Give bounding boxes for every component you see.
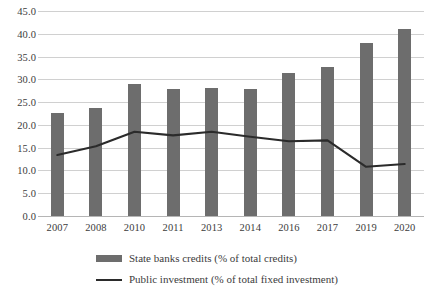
public-investment-line-svg [38, 11, 424, 216]
y-axis-tick-label: 40.0 [2, 28, 36, 39]
legend-label-public-investment: Public investment (% of total fixed inve… [129, 273, 338, 286]
bar-swatch-icon [96, 255, 122, 262]
y-axis: 45.040.035.030.025.020.015.010.05.00.0 [0, 0, 36, 222]
x-axis-tick-label-2017: 2017 [317, 222, 338, 234]
x-axis-tick-label-2008: 2008 [85, 222, 106, 234]
plot-area [38, 11, 424, 216]
y-axis-tick-label: 0.0 [2, 211, 36, 222]
y-axis-tick-label: 15.0 [2, 142, 36, 153]
line-swatch-icon [96, 279, 122, 281]
y-axis-tick-label: 25.0 [2, 97, 36, 108]
line-series-public-investment [38, 11, 424, 216]
x-axis-tick-label-2011: 2011 [163, 222, 184, 234]
y-axis-tick-label: 45.0 [2, 6, 36, 17]
x-axis-tick-label-2013: 2013 [201, 222, 222, 234]
y-axis-tick-label: 5.0 [2, 188, 36, 199]
legend-item-public-investment: Public investment (% of total fixed inve… [0, 269, 428, 290]
chart-legend: State banks credits (% of total credits)… [0, 248, 428, 290]
axis-baseline [38, 216, 424, 217]
x-axis-tick-label-2007: 2007 [47, 222, 68, 234]
y-axis-tick-label: 35.0 [2, 51, 36, 62]
x-axis-tick-label-2016: 2016 [278, 222, 299, 234]
x-axis-tick-label-2020: 2020 [394, 222, 415, 234]
plot-wrapper: 45.040.035.030.025.020.015.010.05.00.0 2… [0, 0, 428, 222]
x-axis-tick-label-2010: 2010 [124, 222, 145, 234]
x-axis-tick-label-2014: 2014 [240, 222, 261, 234]
legend-label-state-banks-credits: State banks credits (% of total credits) [129, 252, 297, 265]
legend-item-state-banks-credits: State banks credits (% of total credits) [0, 248, 428, 269]
y-axis-tick-label: 30.0 [2, 74, 36, 85]
chart-container: 45.040.035.030.025.020.015.010.05.00.0 2… [0, 0, 428, 297]
y-axis-tick-label: 20.0 [2, 119, 36, 130]
y-axis-tick-label: 10.0 [2, 165, 36, 176]
x-axis: 2007200820102011201320142016201720192020 [38, 220, 424, 240]
x-axis-tick-label-2019: 2019 [355, 222, 376, 234]
